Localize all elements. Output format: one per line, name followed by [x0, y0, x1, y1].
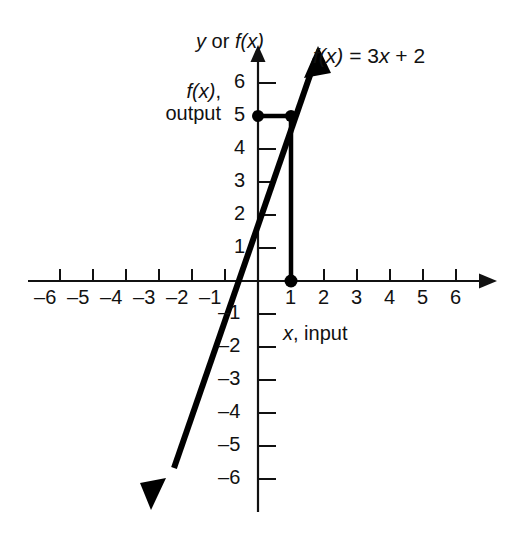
minus-sign: – [67, 286, 78, 308]
y-tick-label-6: 6 [234, 70, 245, 92]
minus-sign: – [199, 286, 210, 308]
output-label-line2: output [106, 102, 221, 124]
y-tick-value: 6 [229, 466, 240, 488]
point-1-5 [285, 110, 297, 122]
x-tick-label-neg-5: –5 [67, 286, 89, 308]
graph-figure [0, 0, 510, 534]
equation-coefficient: 3 [367, 44, 379, 67]
y-tick-label-5: 5 [234, 103, 245, 125]
y-tick-label-neg-4: –4 [218, 400, 240, 422]
x-tick-label-neg-3: –3 [133, 286, 155, 308]
minus-sign: – [100, 286, 111, 308]
output-label: f(x), output [106, 80, 221, 125]
y-tick-label-neg-5: –5 [218, 433, 240, 455]
y-axis-title-or: or [212, 30, 230, 52]
x-tick-label-2: 2 [318, 286, 329, 308]
x-tick-label-4: 4 [384, 286, 395, 308]
y-tick-value: 5 [229, 433, 240, 455]
equation-constant: 2 [413, 44, 425, 67]
equation-equals: = [349, 44, 361, 67]
x-tick-label-neg-4: –4 [100, 286, 122, 308]
output-label-fx: f(x) [187, 80, 216, 102]
minus-sign: – [218, 334, 229, 356]
minus-sign: – [218, 433, 229, 455]
y-axis-title-y: y [196, 30, 206, 52]
x-tick-value: 5 [78, 286, 89, 308]
x-tick-label-6: 6 [450, 286, 461, 308]
output-label-comma: , [215, 80, 221, 102]
y-tick-value: 1 [229, 301, 240, 323]
x-tick-label-neg-2: –2 [166, 286, 188, 308]
minus-sign: – [218, 400, 229, 422]
x-tick-value: 2 [177, 286, 188, 308]
output-label-line1: f(x), [106, 80, 221, 102]
minus-sign: – [34, 286, 45, 308]
equation-label: f(x) = 3x + 2 [313, 44, 425, 68]
x-tick-label-3: 3 [351, 286, 362, 308]
y-tick-value: 3 [229, 367, 240, 389]
x-tick-value: 6 [45, 286, 56, 308]
y-tick-label-neg-1: –1 [218, 301, 240, 323]
y-tick-value: 2 [229, 334, 240, 356]
y-tick-label-3: 3 [234, 169, 245, 191]
minus-sign: – [218, 301, 229, 323]
x-tick-value: 4 [111, 286, 122, 308]
x-tick-value: 3 [144, 286, 155, 308]
y-tick-value: 4 [229, 400, 240, 422]
equation-fx: f(x) [313, 44, 343, 67]
y-tick-label-4: 4 [234, 136, 245, 158]
y-tick-label-neg-2: –2 [218, 334, 240, 356]
minus-sign: – [218, 367, 229, 389]
y-tick-label-2: 2 [234, 202, 245, 224]
x-axis-title-rest: , input [293, 322, 347, 344]
y-tick-label-neg-6: –6 [218, 466, 240, 488]
x-axis-title: x, input [283, 322, 347, 344]
equation-plus: + [395, 44, 407, 67]
y-axis-title: y or f(x) [196, 30, 264, 52]
y-tick-label-1: 1 [234, 235, 245, 257]
x-axis-title-x: x [283, 322, 293, 344]
function-line-arrow-down-icon [140, 478, 166, 510]
minus-sign: – [133, 286, 144, 308]
x-axis-arrow-icon [479, 274, 497, 289]
equation-variable: x [379, 44, 390, 67]
y-axis-title-fx: f(x) [235, 30, 264, 52]
point-0-5 [252, 110, 264, 122]
y-tick-label-neg-3: –3 [218, 367, 240, 389]
minus-sign: – [218, 466, 229, 488]
minus-sign: – [166, 286, 177, 308]
x-tick-label-5: 5 [417, 286, 428, 308]
x-tick-label-neg-6: –6 [34, 286, 56, 308]
x-tick-label-1: 1 [285, 286, 296, 308]
